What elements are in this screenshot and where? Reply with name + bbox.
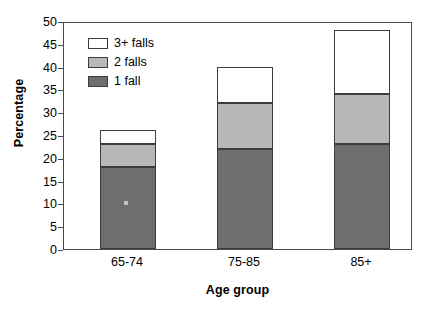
bar-segment-2-falls[interactable]	[217, 103, 273, 149]
y-axis-tick-label: 50	[31, 16, 57, 28]
bar-segment-3--falls[interactable]	[334, 30, 390, 94]
legend-label: 1 fall	[114, 75, 140, 88]
legend-item-2-falls[interactable]: 2 falls	[88, 53, 208, 72]
legend-swatch-icon	[88, 38, 108, 49]
y-axis-tick-label: 30	[31, 107, 57, 119]
legend-label: 3+ falls	[114, 37, 154, 50]
bar-segment-1-fall[interactable]	[217, 149, 273, 249]
x-axis-tick-label: 65-74	[82, 256, 172, 269]
bar-75-85[interactable]	[217, 21, 273, 249]
x-axis-title: Age group	[63, 283, 412, 297]
y-axis-tick-labels: 05101520253035404550	[29, 0, 57, 317]
y-axis-tick-label: 40	[31, 62, 57, 74]
plot-area: 3+ falls2 falls1 fall	[63, 22, 412, 250]
x-axis-tick-label: 85+	[316, 256, 406, 269]
legend-label: 2 falls	[114, 56, 147, 69]
legend-item-3--falls[interactable]: 3+ falls	[88, 34, 208, 53]
y-axis-tick-label: 45	[31, 39, 57, 51]
bar-segment-1-fall[interactable]	[334, 144, 390, 249]
y-axis-tick-label: 0	[31, 244, 57, 256]
y-axis-tick-label: 25	[31, 130, 57, 142]
bar-segment-2-falls[interactable]	[100, 144, 156, 167]
bar-85+[interactable]	[334, 21, 390, 249]
stacked-bar-chart: Percentage 05101520253035404550 3+ falls…	[0, 0, 431, 317]
legend-item-1-fall[interactable]: 1 fall	[88, 72, 208, 91]
bar-segment-2-falls[interactable]	[334, 94, 390, 144]
y-axis-tick-label: 5	[31, 221, 57, 233]
bar-segment-3--falls[interactable]	[217, 67, 273, 103]
chart-legend: 3+ falls2 falls1 fall	[88, 34, 208, 91]
x-axis-tick-label: 75-85	[199, 256, 289, 269]
legend-swatch-icon	[88, 76, 108, 87]
scan-artifact-speck	[124, 201, 128, 205]
y-axis-tick-mark	[58, 250, 63, 251]
y-axis-tick-label: 20	[31, 153, 57, 165]
y-axis-tick-label: 15	[31, 176, 57, 188]
y-axis-tick-label: 35	[31, 84, 57, 96]
y-axis-title: Percentage	[12, 53, 26, 173]
y-axis-tick-label: 10	[31, 198, 57, 210]
bar-segment-3--falls[interactable]	[100, 130, 156, 144]
legend-swatch-icon	[88, 57, 108, 68]
bar-segment-1-fall[interactable]	[100, 167, 156, 249]
